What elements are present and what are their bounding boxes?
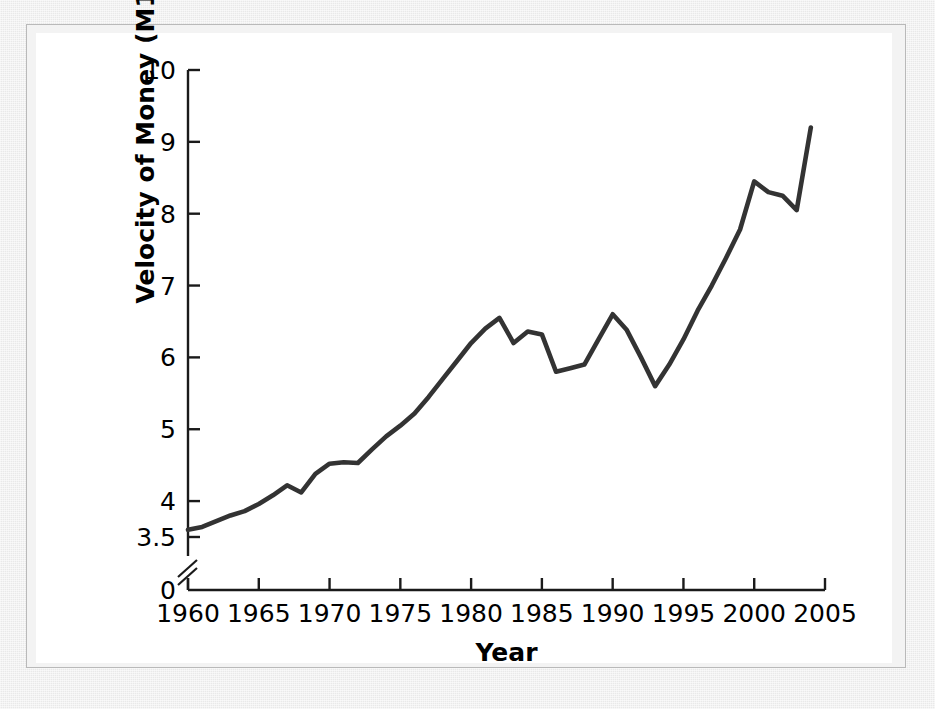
y-tick-label: 6 (60, 345, 176, 370)
axes (178, 70, 825, 590)
y-tick-label: 7 (60, 273, 176, 298)
y-tick-label: 10 (60, 58, 176, 83)
y-tick-label: 8 (60, 201, 176, 226)
y-tick-label: 5 (60, 417, 176, 442)
x-tick-label: 2005 (793, 601, 857, 626)
y-tick-label: 4 (60, 489, 176, 514)
x-tick-label: 2000 (722, 601, 786, 626)
x-tick-label: 1960 (156, 601, 220, 626)
data-series-line (188, 127, 811, 529)
axis-break-slash (178, 560, 197, 577)
y-tick-label: 3.5 (60, 525, 176, 550)
x-tick-label: 1995 (652, 601, 716, 626)
x-tick-label: 1985 (510, 601, 574, 626)
x-tick-label: 1970 (298, 601, 362, 626)
x-tick-label: 1965 (227, 601, 291, 626)
x-tick-label: 1980 (439, 601, 503, 626)
y-axis-ticks (188, 70, 200, 537)
x-tick-label: 1975 (369, 601, 433, 626)
x-axis-title: Year (78, 640, 935, 665)
y-tick-label: 9 (60, 129, 176, 154)
x-axis-ticks (188, 578, 825, 590)
x-tick-label: 1990 (581, 601, 645, 626)
